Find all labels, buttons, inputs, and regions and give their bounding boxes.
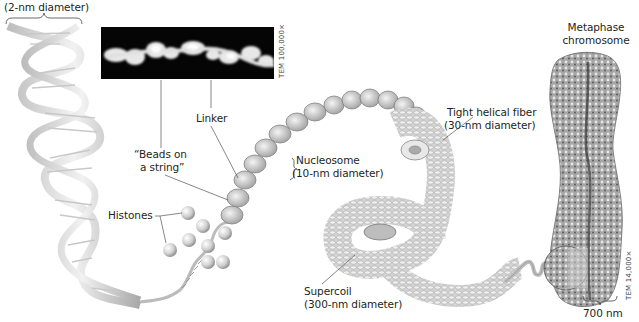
linker-label: Linker <box>196 112 227 124</box>
chromosome-label-line2: chromosome <box>560 34 632 46</box>
beads-leader <box>165 175 228 200</box>
beads-label-line2: a string” <box>140 161 184 173</box>
supercoil <box>337 122 556 296</box>
dna-diameter-label: (2-nm diameter) <box>4 1 89 13</box>
fiber-label-line1: Tight helical fiber <box>447 106 536 118</box>
nucleosome-label-line2: (10-nm diameter) <box>292 167 384 179</box>
metaphase-chromosome <box>544 52 622 306</box>
linker-leader <box>211 126 238 178</box>
dna-double-helix <box>8 26 140 305</box>
beads-label-line1: “Beads on <box>134 148 187 160</box>
chromosome-width-label: 700 nm <box>583 307 623 319</box>
chromosome-label-line1: Metaphase <box>566 21 626 33</box>
chromatin-packing-diagram: (2-nm diameter) TEM 100,000× Linker “Bea… <box>0 0 639 322</box>
beads-tem-magnification: TEM 100,000× <box>278 24 286 78</box>
histones-label: Histones <box>108 209 153 221</box>
dna-diameter-bracket <box>6 13 82 24</box>
nucleosome-label-line1: Nucleosome <box>296 154 360 166</box>
supercoil-label-line2: (300-nm diameter) <box>304 298 402 310</box>
chromosome-tem-magnification: TEM 14,000× <box>625 250 633 300</box>
fiber-label-line2: (30-nm diameter) <box>444 119 536 131</box>
histones-leader-lines <box>155 213 182 243</box>
supercoil-label-line1: Supercoil <box>304 285 352 297</box>
